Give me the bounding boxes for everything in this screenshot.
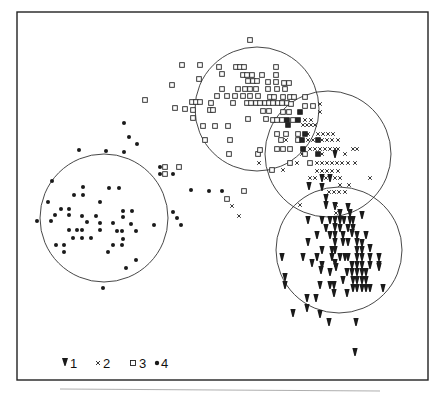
data-point — [121, 209, 125, 213]
data-point — [301, 147, 306, 152]
data-point — [274, 73, 279, 78]
data-point — [106, 250, 110, 254]
data-point — [317, 310, 322, 318]
data-point — [296, 118, 301, 123]
data-point — [349, 229, 354, 237]
data-point — [367, 261, 372, 269]
data-point — [313, 123, 317, 127]
data-point — [207, 189, 211, 193]
data-point — [282, 81, 287, 86]
legend-item-1: 1 — [62, 356, 77, 371]
data-point — [271, 101, 276, 106]
data-point — [285, 118, 290, 123]
data-point — [363, 231, 368, 239]
data-point — [347, 209, 352, 217]
data-point — [122, 121, 126, 125]
data-point — [306, 182, 311, 190]
data-point — [301, 123, 305, 127]
data-point — [327, 174, 332, 182]
data-point — [246, 79, 251, 84]
data-point — [257, 161, 261, 165]
data-point — [121, 237, 125, 241]
data-point — [287, 81, 292, 86]
data-point — [354, 268, 359, 276]
data-point — [323, 147, 327, 151]
data-point — [98, 221, 102, 225]
data-point — [340, 161, 344, 165]
data-point — [287, 110, 292, 115]
data-point — [311, 104, 316, 109]
data-point — [303, 104, 308, 109]
data-point — [158, 172, 162, 176]
data-point — [254, 87, 259, 92]
data-point — [80, 228, 84, 232]
data-point — [104, 149, 108, 153]
data-point — [198, 63, 203, 68]
data-point — [313, 294, 318, 302]
data-point — [258, 101, 263, 106]
data-point — [215, 94, 220, 99]
data-point — [345, 238, 350, 246]
data-point — [349, 268, 354, 276]
data-point — [326, 132, 330, 136]
data-point — [243, 87, 248, 92]
data-point — [314, 231, 319, 239]
data-point — [288, 161, 293, 166]
series-2 — [230, 102, 372, 218]
scatter-plot: 1 2 3 4 — [0, 0, 435, 399]
cluster-circle-1 — [276, 187, 402, 313]
data-point — [220, 189, 224, 193]
data-point — [376, 253, 381, 261]
data-point — [280, 101, 285, 106]
data-point — [327, 216, 332, 224]
data-point — [330, 138, 334, 142]
data-point — [352, 348, 357, 356]
data-point — [304, 294, 309, 302]
data-point — [327, 190, 331, 194]
data-point — [363, 268, 368, 276]
data-point — [320, 161, 324, 165]
data-point — [298, 203, 302, 207]
data-point — [376, 263, 381, 271]
data-point — [347, 183, 351, 187]
data-point — [359, 211, 364, 219]
data-point — [158, 165, 162, 169]
data-point — [326, 318, 331, 326]
data-point — [309, 118, 313, 122]
data-point — [275, 87, 280, 92]
data-point — [332, 231, 337, 239]
data-point — [183, 107, 188, 112]
data-point — [115, 229, 119, 233]
data-point — [367, 253, 372, 261]
data-point — [343, 190, 347, 194]
data-point — [77, 148, 81, 152]
data-point — [163, 172, 168, 177]
data-point — [237, 214, 241, 218]
data-point — [333, 176, 337, 180]
square-marker-icon — [131, 361, 136, 366]
data-point — [107, 186, 111, 190]
data-point — [318, 266, 323, 274]
data-point — [122, 150, 126, 154]
data-point — [345, 224, 350, 232]
data-point — [354, 276, 359, 284]
data-point — [275, 118, 280, 123]
data-point — [67, 213, 71, 217]
data-point — [256, 94, 261, 99]
legend-label-4: 4 — [161, 356, 168, 371]
data-point — [275, 147, 280, 152]
data-point — [267, 109, 272, 114]
data-point — [300, 138, 305, 143]
data-point — [289, 102, 294, 107]
data-point — [359, 253, 364, 261]
data-point — [264, 117, 269, 122]
data-point — [189, 188, 193, 192]
data-point — [241, 94, 246, 99]
data-point — [211, 108, 216, 113]
data-point — [171, 172, 175, 176]
data-point — [72, 193, 76, 197]
data-point — [296, 132, 301, 137]
data-point — [354, 253, 359, 261]
data-point — [191, 116, 196, 121]
data-point — [298, 110, 303, 115]
